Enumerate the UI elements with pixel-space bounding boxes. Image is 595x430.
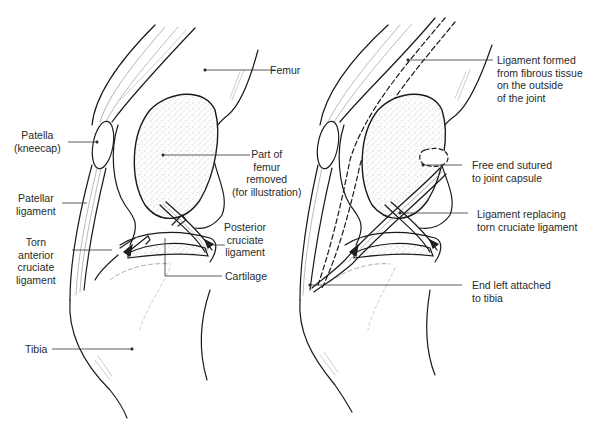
label-femur: Femur: [270, 64, 300, 77]
label-ligament-replacing: Ligament replacing torn cruciate ligamen…: [477, 208, 577, 233]
label-torn-acl: Torn anterior cruciate ligament: [16, 236, 56, 286]
knee-ligament-diagram: Femur Patella (kneecap) Patellar ligamen…: [0, 0, 595, 430]
label-ligament-formed: Ligament formed from fibrous tissue on t…: [497, 54, 583, 104]
label-patellar-ligament: Patellar ligament: [16, 192, 56, 217]
label-free-end: Free end sutured to joint capsule: [472, 159, 552, 184]
label-end-attached: End left attached to tibia: [472, 279, 551, 304]
label-posterior-cruciate: Posterior cruciate ligament: [224, 221, 266, 259]
label-part-of-femur: Part of femur removed (for illustration): [232, 148, 301, 198]
label-patella: Patella (kneecap): [14, 129, 61, 154]
label-cartilage: Cartilage: [225, 270, 267, 283]
label-tibia: Tibia: [25, 343, 47, 356]
right-knee-drawing: [300, 18, 492, 412]
